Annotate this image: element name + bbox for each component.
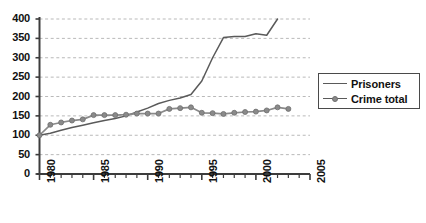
x-axis-tick-label: 1995 bbox=[207, 159, 219, 183]
series-marker bbox=[145, 111, 150, 116]
series-marker bbox=[188, 105, 193, 110]
y-axis-tick-label: 400 bbox=[0, 12, 30, 24]
series-marker bbox=[199, 110, 204, 115]
series-marker bbox=[275, 105, 280, 110]
axes bbox=[36, 17, 311, 174]
x-axis-tick-label: 1985 bbox=[99, 159, 111, 183]
series-marker bbox=[243, 110, 248, 115]
legend-item-prisoners: Prisoners bbox=[322, 76, 414, 91]
series-marker bbox=[134, 111, 139, 116]
y-axis-tick-label: 300 bbox=[0, 51, 30, 63]
y-axis-tick-label: 200 bbox=[0, 90, 30, 102]
series-marker bbox=[167, 106, 172, 111]
series-marker bbox=[37, 133, 42, 138]
series-marker bbox=[253, 109, 258, 114]
series-marker bbox=[210, 111, 215, 116]
plot-area bbox=[0, 0, 426, 223]
series-marker bbox=[286, 106, 291, 111]
chart-legend: Prisoners Crime total bbox=[318, 73, 420, 109]
series-marker bbox=[124, 112, 129, 117]
legend-label-prisoners: Prisoners bbox=[351, 78, 401, 90]
series-marker bbox=[113, 113, 118, 118]
series-marker bbox=[59, 120, 64, 125]
y-axis-tick-label: 150 bbox=[0, 109, 30, 121]
x-axis-tick-label: 1980 bbox=[45, 159, 57, 183]
series-marker bbox=[156, 111, 161, 116]
x-axis-tick-label: 2000 bbox=[261, 159, 273, 183]
legend-line-swatch-prisoners bbox=[322, 78, 348, 90]
x-axis-tick-label: 1990 bbox=[153, 159, 165, 183]
legend-label-crime-total: Crime total bbox=[351, 93, 407, 105]
y-axis-tick-label: 0 bbox=[0, 167, 30, 179]
legend-line-swatch-crime-total bbox=[322, 93, 348, 105]
y-axis-tick-label: 250 bbox=[0, 70, 30, 82]
line-chart: 050100150200250300350400 198019851990199… bbox=[0, 0, 426, 223]
legend-item-crime-total: Crime total bbox=[322, 91, 414, 106]
series-marker bbox=[80, 117, 85, 122]
x-axis-tick-label: 2005 bbox=[315, 159, 327, 183]
series-marker bbox=[102, 113, 107, 118]
series-marker bbox=[264, 108, 269, 113]
series-layer bbox=[37, 19, 291, 138]
y-axis-tick-label: 350 bbox=[0, 31, 30, 43]
series-marker bbox=[91, 113, 96, 118]
series-marker bbox=[48, 122, 53, 127]
series-line-crime-total bbox=[40, 107, 289, 135]
series-marker bbox=[178, 106, 183, 111]
series-marker bbox=[221, 111, 226, 116]
series-marker bbox=[232, 110, 237, 115]
series-marker bbox=[69, 118, 74, 123]
gridlines bbox=[40, 19, 311, 155]
y-axis-tick-label: 100 bbox=[0, 128, 30, 140]
y-axis-tick-label: 50 bbox=[0, 148, 30, 160]
